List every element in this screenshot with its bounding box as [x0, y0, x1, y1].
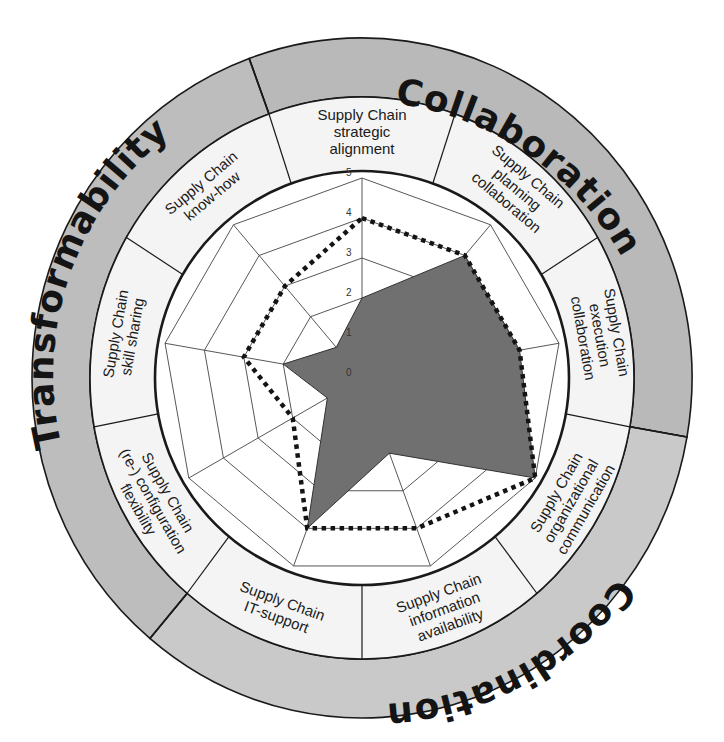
tick-label: 3 — [346, 247, 352, 258]
tick-label: 0 — [346, 367, 352, 378]
axis-label-line: Supply Chain — [317, 106, 406, 123]
tick-label: 4 — [346, 207, 352, 218]
axis-label-line: strategic — [334, 123, 391, 140]
radar-chart: 012345 Supply ChainstrategicalignmentSup… — [0, 0, 724, 742]
tick-label: 2 — [346, 287, 352, 298]
tick-label: 5 — [346, 167, 352, 178]
tick-label: 1 — [346, 327, 352, 338]
axis-label-line: alignment — [329, 140, 395, 157]
